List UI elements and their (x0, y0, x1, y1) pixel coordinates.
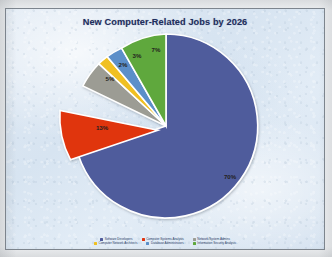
legend-label: Computer Network Architects (99, 242, 138, 245)
legend-swatch-icon (193, 238, 196, 241)
chart-title: New Computer-Related Jobs by 2026 (6, 17, 324, 27)
pie-chart-svg: 70% 13% 5% 2% 3% 7% (6, 27, 325, 225)
legend-item-database-administrators[interactable]: Database Administrators (146, 242, 183, 245)
legend-label: Information Security Analysts (197, 242, 236, 245)
legend-label: Database Administrators (151, 242, 184, 245)
legend-row-2: Computer Network Architects Database Adm… (16, 242, 314, 245)
scanned-page: New Computer-Related Jobs by 2026 (0, 0, 332, 257)
pie-label-computer-network-architects: 2% (119, 61, 128, 68)
pie-label-information-security-analysts: 7% (152, 46, 161, 53)
legend-swatch-icon (94, 242, 97, 245)
pie-chart: 70% 13% 5% 2% 3% 7% (6, 27, 325, 225)
pie-label-computer-systems-analysts: 13% (96, 124, 109, 131)
legend-swatch-icon (146, 242, 149, 245)
legend-swatch-icon (142, 238, 145, 241)
pie-label-network-system-admins: 5% (106, 75, 115, 82)
pie-label-database-administrators: 3% (133, 52, 142, 59)
legend-swatch-icon (193, 242, 196, 245)
chart-legend: Software Developers Computer Systems Ana… (6, 237, 324, 245)
legend-item-computer-network-architects[interactable]: Computer Network Architects (94, 242, 138, 245)
legend-item-information-security-analysts[interactable]: Information Security Analysts (193, 242, 236, 245)
pie-label-software-developers: 70% (224, 173, 237, 180)
pie-slices (60, 34, 258, 218)
chart-frame: New Computer-Related Jobs by 2026 (5, 8, 325, 250)
